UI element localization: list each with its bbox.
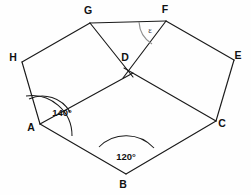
angle-arcs [26,22,154,148]
vertex-label-C: C [218,117,226,129]
edge-H-G [22,23,90,62]
diagonal-D-C [124,68,216,121]
angle-label-epsilon: ε [148,25,152,35]
angle-label-B: 120° [116,151,136,162]
vertex-label-A: A [27,121,35,133]
edge-E-C [216,60,234,121]
geometry-figure: G F H E D A C B 140° 120° ε [0,0,251,195]
vertex-label-B: B [119,178,127,190]
vertex-label-E: E [234,49,241,61]
edge-B-C [126,121,216,174]
edge-G-F [90,21,166,23]
diagonal-F-D [123,21,166,78]
edge-H-A [22,62,40,124]
edge-F-E [166,21,234,60]
vertex-label-D: D [121,51,129,63]
angle-label-A: 140° [52,107,72,118]
vertex-label-F: F [162,3,169,15]
vertex-label-G: G [84,4,92,16]
vertex-label-H: H [9,51,17,63]
edge-A-B [40,124,126,174]
angle-labels: 140° 120° ε [52,25,152,162]
geometry-diagram-canvas: G F H E D A C B 140° 120° ε [0,0,251,195]
angle-arc-B [99,136,154,148]
